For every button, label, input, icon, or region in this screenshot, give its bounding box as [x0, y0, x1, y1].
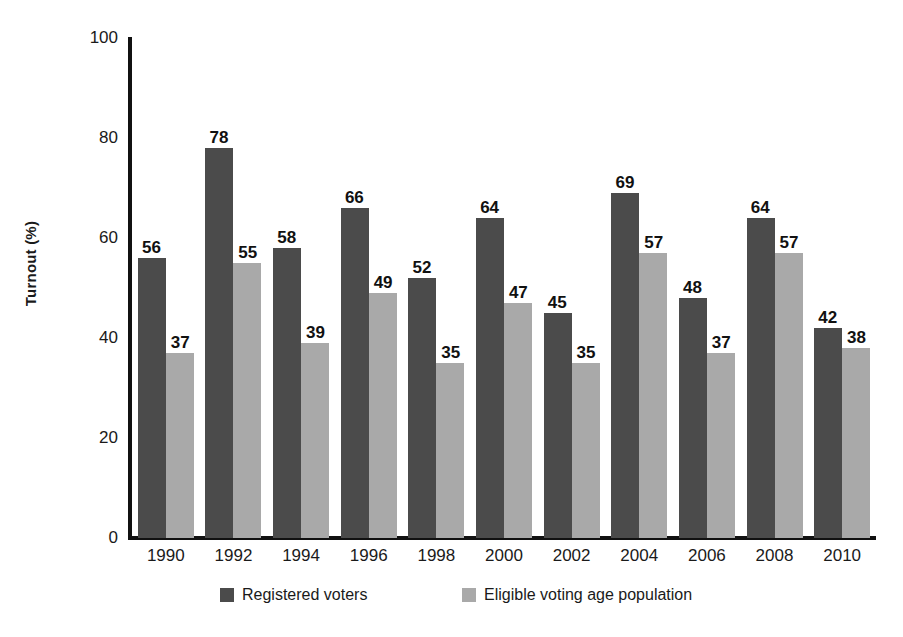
- bar-chart: Turnout (%) 020406080100 563778555839664…: [0, 0, 903, 637]
- bar-2004-series2[interactable]: 57: [639, 253, 667, 538]
- legend-label: Eligible voting age population: [484, 586, 692, 604]
- bar-value-label: 39: [306, 324, 325, 341]
- y-axis-tick-labels: 020406080100: [60, 0, 118, 540]
- bar-group: 6649: [335, 38, 403, 538]
- plot-area: 5637785558396649523564474535695748376457…: [132, 38, 876, 538]
- bar-1996-series2[interactable]: 49: [369, 293, 397, 538]
- bar-value-label: 78: [210, 129, 229, 146]
- bar-1990-series2[interactable]: 37: [166, 353, 194, 538]
- bar-group: 6447: [470, 38, 538, 538]
- bar-2000-series2[interactable]: 47: [504, 303, 532, 538]
- y-axis-tick-label: 20: [60, 429, 118, 446]
- bar-1996-series1[interactable]: 66: [341, 208, 369, 538]
- x-axis-tick-label-2004: 2004: [605, 546, 673, 565]
- bar-2010-series1[interactable]: 42: [814, 328, 842, 538]
- bar-1994-series1[interactable]: 58: [273, 248, 301, 538]
- bar-value-label: 38: [847, 329, 866, 346]
- bar-value-label: 47: [509, 284, 528, 301]
- y-axis-tick-label: 40: [60, 329, 118, 346]
- bar-value-label: 64: [480, 199, 499, 216]
- x-axis-tick-label-1998: 1998: [403, 546, 471, 565]
- x-axis-tick-label-2000: 2000: [470, 546, 538, 565]
- bar-value-label: 49: [374, 274, 393, 291]
- bar-1994-series2[interactable]: 39: [301, 343, 329, 538]
- bar-value-label: 37: [712, 334, 731, 351]
- bar-group: 5235: [403, 38, 471, 538]
- bar-value-label: 58: [277, 229, 296, 246]
- x-axis-tick-label-1992: 1992: [200, 546, 268, 565]
- bar-2006-series2[interactable]: 37: [707, 353, 735, 538]
- bar-value-label: 66: [345, 189, 364, 206]
- bar-value-label: 55: [238, 244, 257, 261]
- bar-value-label: 35: [441, 344, 460, 361]
- bar-group: 4837: [673, 38, 741, 538]
- legend-label: Registered voters: [242, 586, 367, 604]
- bar-value-label: 42: [818, 309, 837, 326]
- y-axis-title: Turnout (%): [22, 164, 39, 364]
- bar-value-label: 56: [142, 239, 161, 256]
- y-axis-tick-label: 0: [60, 529, 118, 546]
- bar-value-label: 57: [779, 234, 798, 251]
- bar-group: 6457: [741, 38, 809, 538]
- x-axis-tick-label-1994: 1994: [267, 546, 335, 565]
- y-axis-tick-label: 100: [60, 29, 118, 46]
- bar-value-label: 52: [413, 259, 432, 276]
- bar-value-label: 57: [644, 234, 663, 251]
- bar-2008-series2[interactable]: 57: [775, 253, 803, 538]
- bar-2006-series1[interactable]: 48: [679, 298, 707, 538]
- x-axis-tick-label-2006: 2006: [673, 546, 741, 565]
- bar-value-label: 45: [548, 294, 567, 311]
- bar-group: 6957: [605, 38, 673, 538]
- bar-group: 7855: [200, 38, 268, 538]
- bar-group: 4535: [538, 38, 606, 538]
- bar-2002-series2[interactable]: 35: [572, 363, 600, 538]
- bar-1992-series1[interactable]: 78: [205, 148, 233, 538]
- bar-group: 5839: [267, 38, 335, 538]
- chart-legend: Registered votersEligible voting age pop…: [132, 586, 876, 614]
- x-axis-tick-label-1990: 1990: [132, 546, 200, 565]
- bar-1998-series2[interactable]: 35: [436, 363, 464, 538]
- bar-2008-series1[interactable]: 64: [747, 218, 775, 538]
- legend-item-1[interactable]: Registered voters: [220, 586, 367, 604]
- bar-1990-series1[interactable]: 56: [138, 258, 166, 538]
- x-axis-tick-label-1996: 1996: [335, 546, 403, 565]
- y-axis-tick-label: 60: [60, 229, 118, 246]
- x-axis-tick-label-2010: 2010: [808, 546, 876, 565]
- bar-2000-series1[interactable]: 64: [476, 218, 504, 538]
- x-axis-tick-label-2002: 2002: [538, 546, 606, 565]
- bar-value-label: 69: [615, 174, 634, 191]
- bar-2010-series2[interactable]: 38: [842, 348, 870, 538]
- bar-2002-series1[interactable]: 45: [544, 313, 572, 538]
- y-axis-tick-label: 80: [60, 129, 118, 146]
- bar-1998-series1[interactable]: 52: [408, 278, 436, 538]
- legend-item-2[interactable]: Eligible voting age population: [462, 586, 692, 604]
- bar-value-label: 48: [683, 279, 702, 296]
- legend-swatch-icon: [220, 588, 234, 602]
- x-axis-tick-label-2008: 2008: [741, 546, 809, 565]
- x-axis-tick-labels: 1990199219941996199820002002200420062008…: [132, 546, 876, 570]
- bar-value-label: 35: [577, 344, 596, 361]
- bar-1992-series2[interactable]: 55: [233, 263, 261, 538]
- bar-2004-series1[interactable]: 69: [611, 193, 639, 538]
- bar-group: 5637: [132, 38, 200, 538]
- bar-value-label: 64: [751, 199, 770, 216]
- bar-value-label: 37: [171, 334, 190, 351]
- bar-group: 4238: [808, 38, 876, 538]
- legend-swatch-icon: [462, 588, 476, 602]
